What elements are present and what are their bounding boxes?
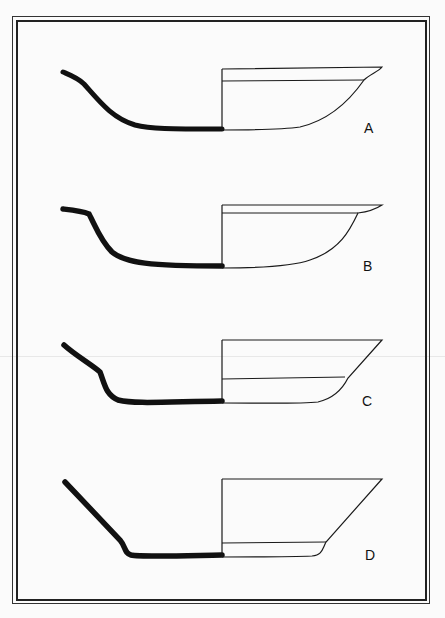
profile-a: A bbox=[63, 67, 382, 136]
profile-d-inner-base bbox=[222, 542, 326, 543]
profile-a-label: A bbox=[364, 120, 374, 136]
profile-c-label: C bbox=[362, 393, 372, 409]
profile-b-section bbox=[63, 209, 222, 266]
profile-d-outline bbox=[222, 479, 382, 557]
profile-d-section bbox=[65, 482, 222, 556]
profile-a-inner-rim bbox=[222, 80, 364, 81]
profile-a-outline bbox=[222, 67, 382, 130]
profile-c: C bbox=[64, 340, 382, 409]
profile-a-section bbox=[63, 72, 222, 129]
profile-d-label: D bbox=[365, 547, 375, 563]
profile-c-outline bbox=[222, 340, 382, 403]
profiles-drawing: A B C D bbox=[0, 0, 445, 618]
profile-c-inner-carination bbox=[222, 377, 345, 379]
profile-b: B bbox=[63, 205, 382, 274]
profile-b-outline bbox=[222, 205, 382, 268]
profile-b-label: B bbox=[363, 258, 372, 274]
profile-d: D bbox=[65, 479, 382, 563]
profile-c-section bbox=[64, 345, 222, 402]
